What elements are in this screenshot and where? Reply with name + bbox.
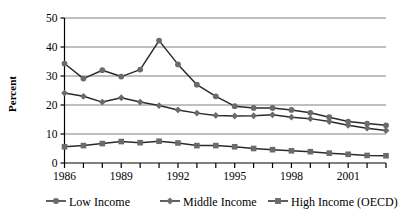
data-point-marker	[364, 153, 370, 159]
data-point-marker	[345, 152, 351, 158]
data-point-marker	[81, 76, 87, 82]
x-axis-tick-label: 1998	[280, 170, 303, 182]
data-point-marker	[232, 144, 238, 150]
data-point-marker	[251, 146, 257, 152]
y-axis-tick-label: 0	[52, 157, 58, 169]
data-point-marker	[270, 147, 276, 153]
y-axis-tick-label: 10	[46, 128, 58, 140]
data-point-marker	[81, 143, 87, 149]
data-point-marker	[175, 62, 181, 68]
data-point-marker	[251, 105, 257, 111]
data-point-marker	[156, 138, 162, 144]
data-point-marker	[53, 198, 59, 204]
x-axis-tick-label: 1995	[223, 170, 246, 182]
chart-background	[0, 0, 403, 224]
x-axis-tick-label: 1992	[166, 170, 189, 182]
y-axis-tick-label: 30	[46, 70, 58, 82]
data-point-marker	[62, 61, 68, 67]
data-point-marker	[118, 74, 124, 80]
legend-label: Low Income	[69, 195, 130, 209]
data-point-marker	[118, 139, 124, 145]
data-point-marker	[156, 38, 162, 44]
line-chart-svg: 01020304050 198619891992199519982001 Per…	[0, 0, 403, 224]
y-axis-tick-label: 20	[46, 99, 58, 111]
legend-label: High Income (OECD)	[291, 195, 398, 209]
x-axis-tick-label: 1986	[53, 170, 76, 182]
data-point-marker	[100, 141, 106, 147]
y-axis-tick-label: 40	[46, 41, 58, 53]
data-point-marker	[270, 105, 276, 111]
data-point-marker	[326, 150, 332, 156]
data-point-marker	[194, 143, 200, 149]
data-point-marker	[289, 107, 295, 113]
data-point-marker	[383, 153, 389, 159]
data-point-marker	[137, 140, 143, 146]
y-axis-label: Percent	[6, 76, 18, 112]
data-point-marker	[137, 67, 143, 73]
data-point-marker	[213, 143, 219, 149]
data-point-marker	[62, 144, 68, 150]
data-point-marker	[194, 82, 200, 88]
x-axis-tick-label: 1989	[110, 170, 133, 182]
data-point-marker	[307, 110, 313, 116]
chart-legend: Low IncomeMiddle IncomeHigh Income (OECD…	[46, 195, 398, 209]
data-point-marker	[308, 149, 314, 155]
data-point-marker	[175, 140, 181, 146]
data-point-marker	[99, 67, 105, 73]
legend-label: Middle Income	[183, 195, 257, 209]
x-axis-tick-label: 2001	[337, 170, 360, 182]
data-point-marker	[275, 198, 281, 204]
data-point-marker	[232, 103, 238, 109]
data-point-marker	[213, 93, 219, 99]
chart-container: 01020304050 198619891992199519982001 Per…	[0, 0, 403, 224]
y-axis-tick-label: 50	[46, 12, 58, 24]
data-point-marker	[289, 148, 295, 154]
